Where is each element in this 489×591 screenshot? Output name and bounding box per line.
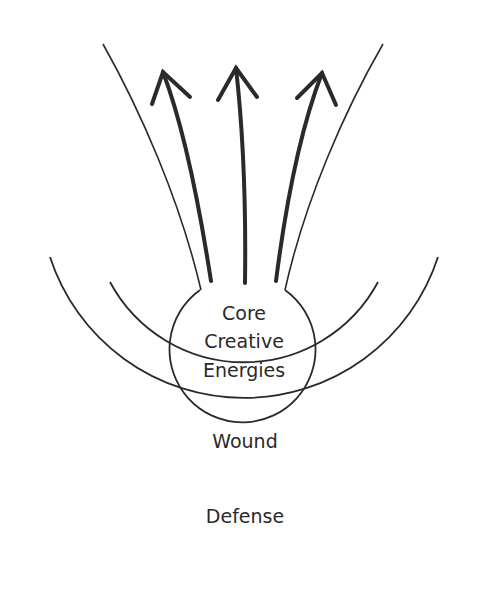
funnel-right-line	[285, 44, 383, 290]
arrow-right	[276, 73, 336, 281]
core-label-line-2: Creative	[204, 330, 284, 352]
core-label-line-3: Energies	[203, 359, 285, 381]
funnel-left-line	[103, 44, 201, 290]
wound-label: Wound	[212, 430, 277, 452]
arrow-left	[152, 72, 211, 281]
core-wound-defense-diagram: Core Creative Energies Wound Defense	[0, 0, 489, 591]
defense-label: Defense	[206, 505, 284, 527]
core-label-line-1: Core	[222, 302, 266, 324]
arrow-center	[218, 68, 257, 283]
